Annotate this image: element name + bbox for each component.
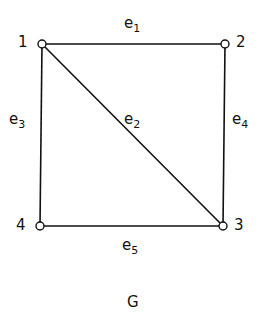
graph-canvas xyxy=(0,0,262,322)
edge-label-e1: e1 xyxy=(124,16,140,31)
edge-e4 xyxy=(223,44,225,226)
edge-label-e2: e2 xyxy=(124,112,140,127)
node-label-3: 3 xyxy=(234,218,244,233)
node-4 xyxy=(36,222,44,230)
node-label-1: 1 xyxy=(18,35,28,50)
node-1 xyxy=(38,40,46,48)
node-label-2: 2 xyxy=(236,35,246,50)
edge-e3 xyxy=(40,44,42,226)
edge-label-e4: e4 xyxy=(232,112,248,127)
graph-caption: G xyxy=(127,293,139,311)
node-2 xyxy=(221,40,229,48)
edge-e2 xyxy=(42,44,223,226)
node-3 xyxy=(219,222,227,230)
node-label-4: 4 xyxy=(16,218,26,233)
edge-label-e3: e3 xyxy=(9,112,25,127)
edge-label-e5: e5 xyxy=(122,238,138,253)
